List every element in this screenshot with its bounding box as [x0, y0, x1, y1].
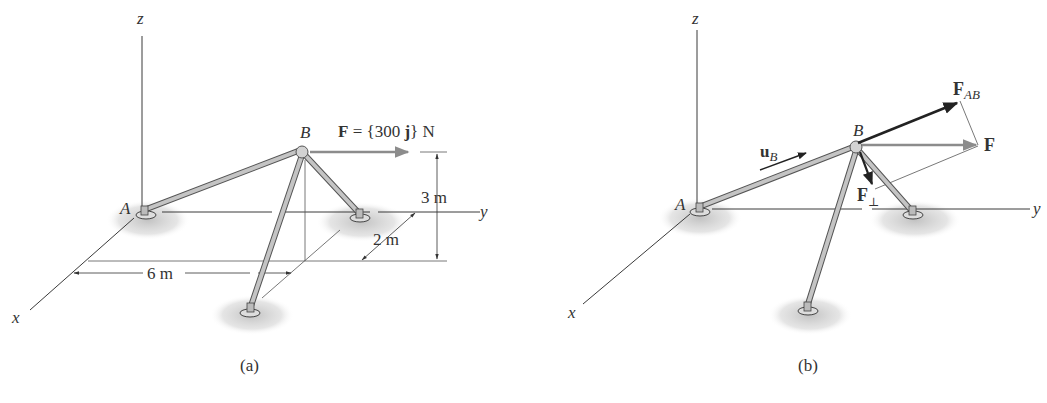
construction-line-fab-to-f: [960, 101, 978, 145]
dim-6m-label: 6 m: [147, 264, 173, 283]
vector-arrow-f-ab: [858, 103, 957, 143]
z-axis-label: z: [136, 9, 144, 28]
dim-2m-label: 2 m: [373, 230, 399, 249]
figure-canvas: z y x A B F = {300 j} N 3 m 2 m 6 m (a): [0, 0, 1047, 403]
force-equals: = {300: [348, 122, 404, 141]
x-axis-label: x: [11, 308, 20, 327]
force-unit-vector: j: [403, 122, 410, 141]
dim-3m-label: 3 m: [421, 188, 447, 207]
force-symbol: F: [338, 122, 348, 141]
x-axis: [30, 218, 134, 310]
caption-a: (a): [240, 356, 259, 375]
panel-a: z y x A B F = {300 j} N 3 m 2 m 6 m (a): [11, 9, 488, 375]
point-b-label: B: [853, 121, 864, 140]
member-ab: [144, 151, 298, 210]
vector-f-label: F: [984, 135, 995, 155]
x-axis: [583, 214, 690, 304]
z-axis-label: z: [691, 9, 699, 28]
member-b-front: [808, 151, 856, 304]
panel-b: z y x A B F FAB F⊥ uB (b): [567, 9, 1041, 375]
force-label: F = {300 j} N: [338, 122, 435, 141]
member-b-right: [305, 155, 358, 212]
vector-f-ab-label: FAB: [953, 79, 980, 102]
member-b-front: [251, 155, 302, 306]
y-axis-label: y: [1031, 199, 1041, 218]
caption-b: (b): [798, 356, 818, 375]
x-axis-label: x: [567, 303, 576, 322]
unit-vector-u-b-label: uB: [760, 142, 777, 164]
point-a-label: A: [119, 199, 131, 218]
force-tail: } N: [410, 122, 435, 141]
point-a-label: A: [674, 195, 686, 214]
point-b-label: B: [300, 123, 311, 142]
joint-b: [296, 146, 308, 158]
y-axis-label: y: [478, 202, 488, 221]
